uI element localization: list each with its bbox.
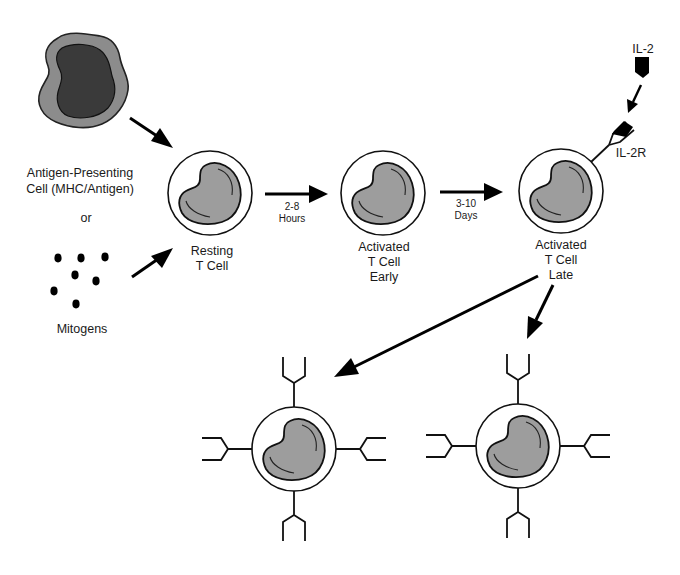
apc-label-line1: Antigen-Presenting <box>27 166 133 180</box>
transition-2-line1: 3-10 <box>456 198 476 209</box>
antigen-presenting-cell-icon <box>39 33 129 127</box>
surface-receptor-right-icon <box>560 435 610 457</box>
surface-receptor-right-icon <box>336 438 386 460</box>
il2-ligand-icon <box>635 57 649 78</box>
arrow-il2-to-receptor <box>627 85 641 113</box>
activated-late-t-cell-icon <box>519 149 603 233</box>
surface-receptor-left-icon <box>202 438 252 460</box>
activated-early-t-cell-icon <box>341 151 425 235</box>
mitogen-dots-icon <box>50 253 108 309</box>
mitogens-label: Mitogens <box>57 322 108 336</box>
surface-receptor-top-icon <box>283 357 305 407</box>
surface-receptor-bottom-icon <box>283 491 305 541</box>
transition-1-line2: Hours <box>279 213 306 224</box>
surface-receptor-left-icon <box>426 435 476 457</box>
apc-label-line2: Cell (MHC/Antigen) <box>26 182 134 196</box>
arrow-apc-to-resting <box>130 118 173 148</box>
il2r-label: IL-2R <box>616 146 647 160</box>
t-cell-activation-diagram: Antigen-Presenting Cell (MHC/Antigen) or… <box>0 0 680 575</box>
resting-t-cell-icon <box>168 151 252 235</box>
output-cell-2 <box>426 354 610 538</box>
surface-receptor-top-icon <box>507 354 529 404</box>
output-cell-1 <box>202 357 386 541</box>
surface-receptor-bottom-icon <box>507 488 529 538</box>
late-label-line3: Late <box>549 268 573 282</box>
or-label: or <box>80 211 91 225</box>
arrow-mitogens-to-resting <box>132 248 173 277</box>
transition-1-line1: 2-8 <box>285 201 300 212</box>
resting-label-line2: T Cell <box>196 259 228 273</box>
il2-label: IL-2 <box>632 42 654 56</box>
transition-2-line2: Days <box>455 210 478 221</box>
early-label-line1: Activated <box>358 240 409 254</box>
arrow-late-to-output-2 <box>527 285 553 339</box>
early-label-line2: T Cell <box>368 255 400 269</box>
early-label-line3: Early <box>370 270 399 284</box>
late-label-line1: Activated <box>535 238 586 252</box>
resting-label-line1: Resting <box>191 244 233 258</box>
late-label-line2: T Cell <box>545 253 577 267</box>
